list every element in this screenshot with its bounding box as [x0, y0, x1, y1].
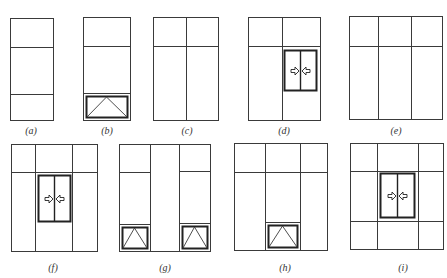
panel-label-e: (e)	[390, 125, 401, 136]
cabinet-frame	[235, 144, 328, 251]
panel-label-b: (b)	[101, 125, 113, 136]
arrow-right-icon	[45, 195, 53, 203]
drawer-open-symbol-icon	[183, 227, 207, 248]
panel-g	[120, 145, 211, 252]
panel-b	[84, 18, 131, 121]
drawer	[120, 225, 151, 252]
panel-label-c: (c)	[181, 125, 192, 136]
drawer	[180, 224, 211, 252]
panel-label-d: (d)	[278, 125, 290, 136]
drawer-front	[123, 228, 148, 249]
cabinet-frame	[11, 19, 54, 121]
sliding-door	[285, 50, 317, 91]
sliding-door	[39, 175, 71, 222]
panel-c	[154, 18, 219, 121]
cabinet-frame	[350, 17, 443, 120]
panel-label-a: (a)	[25, 125, 37, 136]
arrow-left-icon	[399, 192, 407, 200]
cabinet-elevation-diagrams	[0, 0, 447, 278]
drawer	[84, 94, 131, 121]
panel-d	[249, 18, 321, 121]
panel-label-i: (i)	[398, 262, 407, 273]
cabinet-frame	[84, 18, 131, 121]
panel-label-g: (g)	[159, 262, 171, 273]
drawer-front	[87, 97, 128, 118]
arrow-right-icon	[388, 192, 396, 200]
drawer-front	[183, 227, 208, 249]
drawer-open-symbol-icon	[123, 228, 147, 248]
panel-h	[235, 144, 328, 251]
drawer-front	[269, 226, 298, 248]
sliding-door	[381, 173, 415, 218]
drawer	[266, 223, 301, 251]
panel-label-f: (f)	[48, 262, 57, 273]
arrow-left-icon	[56, 195, 64, 203]
cabinet-frame	[120, 145, 211, 252]
panel-e	[350, 17, 443, 120]
panel-label-h: (h)	[279, 262, 291, 273]
panel-f	[12, 145, 98, 252]
panel-i	[351, 144, 444, 250]
drawer-open-symbol-icon	[87, 97, 127, 117]
panel-a	[11, 19, 54, 121]
drawer-open-symbol-icon	[269, 226, 297, 247]
arrow-right-icon	[291, 67, 299, 75]
arrow-left-icon	[302, 67, 310, 75]
